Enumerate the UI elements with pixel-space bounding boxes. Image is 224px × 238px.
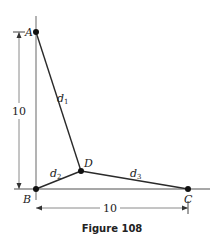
vertical-dimension-label: 10 bbox=[12, 105, 26, 118]
point-c bbox=[185, 186, 191, 192]
point-c-label: C bbox=[184, 193, 193, 206]
point-b-label: B bbox=[22, 193, 31, 206]
horizontal-dimension: 10 bbox=[36, 201, 188, 215]
point-b bbox=[33, 186, 39, 192]
point-a-label: A bbox=[24, 26, 33, 39]
segment-d1-label: d1 bbox=[57, 92, 69, 106]
point-a bbox=[33, 29, 39, 35]
segment-d2-label: d2 bbox=[50, 167, 62, 181]
segment-d3-label: d3 bbox=[130, 167, 142, 181]
figure-caption: Figure 108 bbox=[82, 223, 143, 234]
vertical-dimension: 10 bbox=[12, 32, 26, 189]
horizontal-dimension-label: 10 bbox=[103, 202, 117, 215]
diagram-figure: 10 10 A B C D d1 d2 d3 Figure 108 bbox=[0, 0, 224, 238]
point-d-label: D bbox=[83, 157, 93, 170]
